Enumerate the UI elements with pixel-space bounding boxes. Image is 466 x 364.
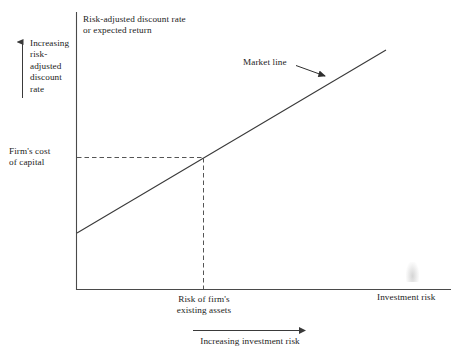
market-line-figure: Risk-adjusted discount rate or expected … (0, 0, 466, 364)
increasing-investment-risk-label: Increasing investment risk (190, 336, 310, 347)
firms-cost-of-capital-label: Firm's cost of capital (9, 146, 75, 169)
risk-of-firms-existing-assets-label: Risk of firm's existing assets (156, 294, 252, 317)
investment-risk-axis-label: Investment risk (377, 292, 435, 303)
market-line-label: Market line (243, 57, 287, 68)
y-axis-title: Risk-adjusted discount rate or expected … (83, 14, 186, 37)
market-line-callout-leader-icon (296, 66, 325, 77)
increasing-risk-adjusted-discount-rate-label: Increasing risk- adjusted discount rate (30, 38, 86, 95)
market-line-series (77, 50, 386, 233)
